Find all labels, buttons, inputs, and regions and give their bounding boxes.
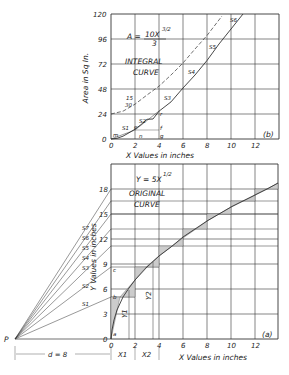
svg-text:X Values in inches: X Values in inches — [125, 151, 194, 160]
svg-text:(b): (b) — [263, 130, 274, 139]
svg-text:S5: S5 — [82, 245, 89, 251]
svg-text:S2: S2 — [82, 283, 89, 289]
svg-text:Area in Sq In.: Area in Sq In. — [81, 53, 90, 104]
svg-text:a: a — [113, 331, 117, 337]
svg-text:S2: S2 — [139, 118, 146, 124]
svg-text:8: 8 — [205, 142, 210, 150]
svg-text:Y Values in inches: Y Values in inches — [89, 223, 98, 291]
svg-text:18: 18 — [99, 186, 108, 194]
svg-text:(a): (a) — [262, 330, 273, 339]
svg-text:48: 48 — [98, 86, 107, 94]
original-chart-text: 18 15 12 9 6 3 0 0 2 4 6 8 10 12 X Value… — [4, 171, 273, 362]
svg-text:S4: S4 — [82, 255, 89, 261]
svg-text:2: 2 — [133, 142, 138, 150]
svg-text:6: 6 — [181, 142, 186, 150]
svg-text:CURVE: CURVE — [134, 200, 160, 209]
svg-text:2: 2 — [133, 342, 138, 350]
svg-text:0: 0 — [102, 136, 107, 144]
svg-text:3: 3 — [152, 39, 157, 48]
svg-text:10X: 10X — [145, 30, 161, 39]
svg-text:S5: S5 — [209, 44, 216, 50]
svg-text:6: 6 — [181, 342, 186, 350]
svg-text:S6: S6 — [82, 235, 89, 241]
svg-text:S7: S7 — [82, 225, 89, 231]
svg-text:0: 0 — [109, 342, 114, 350]
svg-text:A =: A = — [126, 32, 141, 41]
figure: 120 96 72 48 24 0 0 2 4 6 8 10 12 X Valu… — [0, 0, 289, 375]
svg-text:INTEGRAL: INTEGRAL — [125, 57, 162, 66]
svg-text:ORIGINAL: ORIGINAL — [129, 189, 165, 198]
svg-text:X Values in inches: X Values in inches — [178, 353, 247, 362]
svg-text:X1: X1 — [117, 351, 127, 359]
svg-text:1/2: 1/2 — [163, 171, 172, 177]
svg-text:6: 6 — [103, 286, 108, 294]
svg-text:Y1: Y1 — [121, 309, 129, 318]
svg-text:12: 12 — [251, 142, 260, 150]
svg-text:P: P — [4, 335, 9, 344]
svg-text:S3: S3 — [164, 95, 171, 101]
svg-text:b: b — [113, 294, 117, 300]
svg-text:10: 10 — [227, 342, 236, 350]
svg-text:S1: S1 — [122, 125, 129, 131]
svg-text:CURVE: CURVE — [133, 68, 159, 77]
svg-text:4: 4 — [157, 342, 161, 350]
svg-text:0: 0 — [109, 142, 114, 150]
svg-text:Y = 5X: Y = 5X — [136, 175, 162, 184]
svg-text:72: 72 — [98, 61, 107, 69]
svg-text:n: n — [139, 133, 143, 139]
svg-text:3: 3 — [103, 311, 107, 319]
svg-text:8: 8 — [205, 342, 210, 350]
svg-text:30: 30 — [125, 102, 132, 108]
svg-text:24: 24 — [98, 111, 107, 119]
svg-text:S1: S1 — [82, 301, 89, 307]
svg-text:120: 120 — [93, 11, 107, 19]
svg-text:g: g — [160, 133, 164, 140]
svg-text:4: 4 — [157, 142, 161, 150]
svg-text:m: m — [113, 132, 118, 138]
svg-text:d = 8: d = 8 — [48, 351, 68, 359]
svg-text:12: 12 — [99, 236, 108, 244]
svg-text:0: 0 — [103, 336, 108, 344]
svg-text:10: 10 — [227, 142, 236, 150]
svg-text:S4: S4 — [188, 69, 195, 75]
svg-text:15: 15 — [99, 211, 108, 219]
svg-text:S3: S3 — [82, 265, 89, 271]
svg-text:X2: X2 — [141, 351, 152, 359]
svg-text:Y2: Y2 — [145, 291, 153, 300]
svg-text:12: 12 — [251, 342, 260, 350]
svg-text:9: 9 — [103, 261, 108, 269]
svg-text:3/2: 3/2 — [162, 26, 171, 32]
svg-text:c: c — [113, 267, 116, 273]
svg-text:f: f — [160, 125, 163, 131]
svg-text:S6: S6 — [230, 17, 237, 23]
svg-text:96: 96 — [98, 36, 107, 44]
svg-text:15: 15 — [126, 95, 133, 101]
integral-chart-text: 120 96 72 48 24 0 0 2 4 6 8 10 12 X Valu… — [81, 11, 274, 160]
